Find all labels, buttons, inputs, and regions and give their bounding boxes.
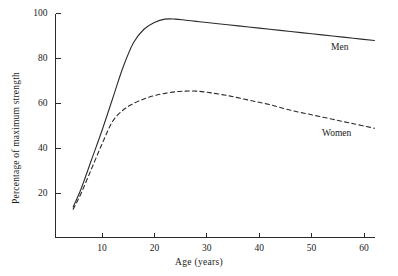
x-tick-label-10: 10 xyxy=(87,244,117,254)
series-label-men: Men xyxy=(331,42,348,52)
x-tick-label-20: 20 xyxy=(139,244,169,254)
chart-figure: 20406080100 102030405060 Age (years) Per… xyxy=(0,0,398,276)
series-label-women: Women xyxy=(322,128,351,138)
tick-marks xyxy=(56,14,365,238)
x-axis-title: Age (years) xyxy=(0,257,398,267)
x-tick-label-40: 40 xyxy=(244,244,274,254)
series-lines xyxy=(73,19,374,209)
series-path-men xyxy=(73,19,374,207)
x-tick-label-30: 30 xyxy=(192,244,222,254)
x-tick-label-60: 60 xyxy=(349,244,379,254)
series-path-women xyxy=(73,91,374,209)
x-tick-label-50: 50 xyxy=(297,244,327,254)
y-axis-title: Percentage of maximum strength xyxy=(8,0,24,276)
